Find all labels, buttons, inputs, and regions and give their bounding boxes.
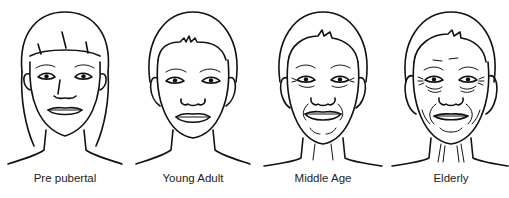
face-illustrations xyxy=(0,0,509,198)
face-middle-age xyxy=(264,12,382,166)
label-middle-age: Middle Age xyxy=(259,172,387,184)
face-young-adult xyxy=(136,12,250,164)
face-pre-pubertal xyxy=(8,12,122,164)
label-elderly: Elderly xyxy=(387,172,509,184)
face-elderly xyxy=(392,12,508,166)
label-young-adult: Young Adult xyxy=(129,172,257,184)
label-pre-pubertal: Pre pubertal xyxy=(1,172,129,184)
face-aging-diagram: Pre pubertal Young Adult Middle Age Elde… xyxy=(0,0,509,198)
